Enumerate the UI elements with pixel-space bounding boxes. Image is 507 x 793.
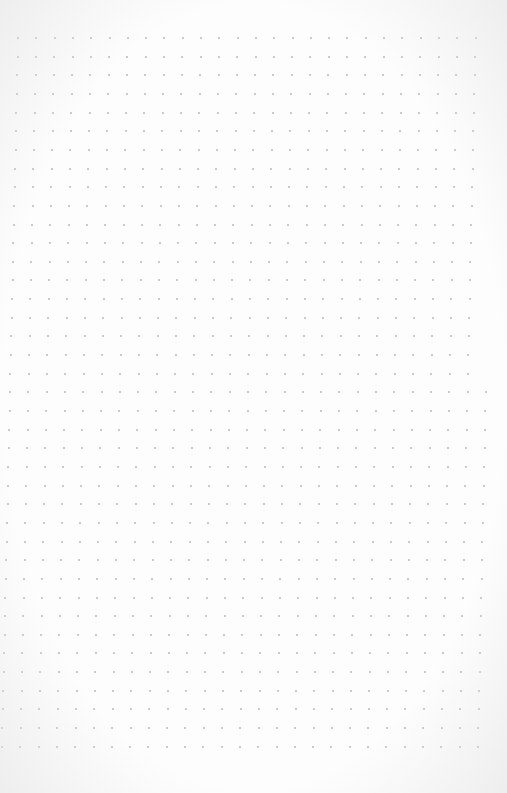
grid-dot xyxy=(24,541,26,543)
grid-dot xyxy=(422,746,424,748)
grid-dot xyxy=(112,690,114,692)
grid-dot xyxy=(475,37,477,39)
grid-dot xyxy=(442,652,444,654)
grid-dot xyxy=(96,578,98,580)
grid-dot xyxy=(281,503,283,505)
grid-dot xyxy=(327,93,329,95)
grid-dot xyxy=(224,578,226,580)
grid-dot xyxy=(254,93,256,95)
grid-dot xyxy=(369,671,371,673)
grid-dot xyxy=(356,410,358,412)
grid-dot xyxy=(305,261,307,263)
grid-dot xyxy=(358,317,360,319)
grid-dot xyxy=(216,149,218,151)
grid-dot xyxy=(445,541,447,543)
grid-dot xyxy=(207,559,209,561)
grid-dot xyxy=(1,727,3,729)
grid-dot xyxy=(234,168,236,170)
grid-dot xyxy=(121,317,123,319)
grid-dot xyxy=(320,391,322,393)
grid-dot xyxy=(346,56,348,58)
grid-dot xyxy=(448,410,450,412)
grid-dot xyxy=(287,242,289,244)
dot-grid xyxy=(0,0,507,793)
grid-dot xyxy=(464,503,466,505)
grid-dot xyxy=(449,373,451,375)
grid-dot xyxy=(38,727,40,729)
grid-dot xyxy=(148,708,150,710)
grid-dot xyxy=(2,690,4,692)
grid-dot xyxy=(75,727,77,729)
grid-dot xyxy=(331,708,333,710)
grid-dot xyxy=(326,112,328,114)
grid-dot xyxy=(16,74,18,76)
grid-dot xyxy=(299,503,301,505)
grid-dot xyxy=(228,410,230,412)
grid-dot xyxy=(120,335,122,337)
grid-dot xyxy=(158,261,160,263)
grid-dot xyxy=(7,466,9,468)
grid-dot xyxy=(200,37,202,39)
grid-dot xyxy=(413,317,415,319)
grid-dot xyxy=(467,354,469,356)
grid-dot xyxy=(27,391,29,393)
grid-dot xyxy=(353,559,355,561)
grid-dot xyxy=(484,429,486,431)
grid-dot xyxy=(473,93,475,95)
grid-dot xyxy=(5,578,7,580)
grid-dot xyxy=(27,410,29,412)
grid-dot xyxy=(386,727,388,729)
grid-dot xyxy=(283,429,285,431)
grid-dot xyxy=(326,149,328,151)
grid-dot xyxy=(235,112,237,114)
grid-dot xyxy=(357,391,359,393)
grid-dot xyxy=(187,597,189,599)
grid-dot xyxy=(267,335,269,337)
grid-dot xyxy=(450,317,452,319)
grid-dot xyxy=(34,93,36,95)
grid-dot xyxy=(394,354,396,356)
grid-dot xyxy=(33,149,35,151)
grid-dot xyxy=(333,634,335,636)
grid-dot xyxy=(33,130,35,132)
grid-dot xyxy=(429,447,431,449)
grid-dot xyxy=(344,130,346,132)
grid-dot xyxy=(442,690,444,692)
grid-dot xyxy=(108,56,110,58)
grid-dot xyxy=(231,298,233,300)
grid-dot xyxy=(334,597,336,599)
grid-dot xyxy=(166,727,168,729)
grid-dot xyxy=(341,279,343,281)
grid-dot xyxy=(420,37,422,39)
grid-dot xyxy=(71,93,73,95)
grid-dot xyxy=(363,93,365,95)
grid-dot xyxy=(192,373,194,375)
grid-dot xyxy=(346,37,348,39)
grid-dot xyxy=(345,112,347,114)
grid-dot xyxy=(308,130,310,132)
grid-dot xyxy=(180,130,182,132)
grid-dot xyxy=(207,522,209,524)
grid-dot xyxy=(438,56,440,58)
grid-dot xyxy=(447,429,449,431)
grid-dot xyxy=(417,168,419,170)
grid-dot xyxy=(103,298,105,300)
grid-dot xyxy=(369,652,371,654)
grid-dot xyxy=(236,56,238,58)
grid-dot xyxy=(5,559,7,561)
grid-dot xyxy=(301,410,303,412)
grid-dot xyxy=(383,37,385,39)
grid-dot xyxy=(172,466,174,468)
grid-dot xyxy=(176,279,178,281)
grid-dot xyxy=(115,541,117,543)
grid-dot xyxy=(425,597,427,599)
grid-dot xyxy=(149,690,151,692)
grid-dot xyxy=(398,168,400,170)
grid-dot xyxy=(69,186,71,188)
grid-dot xyxy=(359,279,361,281)
grid-dot xyxy=(364,56,366,58)
grid-dot xyxy=(141,224,143,226)
grid-dot xyxy=(80,485,82,487)
grid-dot xyxy=(194,298,196,300)
grid-dot xyxy=(212,317,214,319)
